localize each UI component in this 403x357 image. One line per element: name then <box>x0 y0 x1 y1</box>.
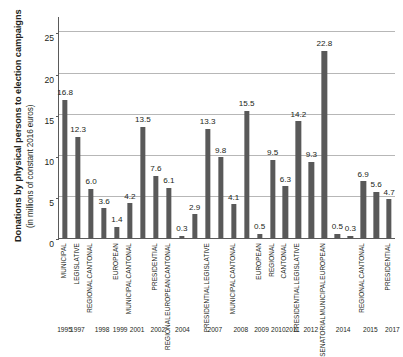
year-label: 2007 <box>207 326 222 333</box>
bar-value-label: 4.7 <box>384 189 395 197</box>
bar-group[interactable]: 15.5 <box>240 17 252 238</box>
bar-group[interactable]: 4.2 <box>124 17 136 238</box>
bar-group[interactable]: 0.3 <box>344 17 356 238</box>
bar-value-label: 12.3 <box>70 126 86 134</box>
x-axis-category-label: CANTONALREGIONAL <box>84 241 96 319</box>
category-line: EUROPEAN <box>164 279 171 316</box>
bar[interactable] <box>309 162 314 238</box>
bar[interactable] <box>244 111 249 238</box>
bar[interactable] <box>101 208 106 238</box>
bar-group[interactable]: 6.1 <box>163 17 175 238</box>
bar[interactable] <box>88 189 93 238</box>
bar[interactable] <box>257 234 262 238</box>
year-label: 2011 <box>286 326 300 333</box>
bar-group[interactable]: 14.2 <box>292 17 304 238</box>
bar-value-label: 4.2 <box>124 193 135 201</box>
bar-group[interactable]: 9.3 <box>305 17 317 238</box>
bar-group[interactable]: 22.8 <box>318 17 330 238</box>
bar-group[interactable]: 12.3 <box>72 17 84 238</box>
bar[interactable] <box>348 236 353 238</box>
bar-value-label: 3.6 <box>98 198 109 206</box>
bar[interactable] <box>322 51 327 238</box>
bar-group[interactable]: 0.5 <box>331 17 343 238</box>
year-label: 2012 <box>303 326 318 333</box>
bar[interactable] <box>62 100 67 238</box>
category-line: REGIONAL <box>268 243 275 277</box>
x-axis-category-label: CANTONALMUNICIPAL <box>123 241 135 319</box>
bar[interactable] <box>361 181 366 238</box>
x-axis-year-labels: 1995199719981999200120022004200720082009… <box>58 326 395 340</box>
x-axis-category-label: LEGISLATIVEPRESIDENTIAL <box>201 241 213 319</box>
x-axis-category-label: CANTONALEUROPEANREGIONAL <box>162 241 174 319</box>
bar[interactable] <box>387 199 392 238</box>
category-line: CANTONAL <box>164 243 171 278</box>
year-label: 2004 <box>175 326 190 333</box>
bar-group[interactable]: 9.5 <box>266 17 278 238</box>
bar-group[interactable]: 0.3 <box>176 17 188 238</box>
bar-group[interactable]: 13.5 <box>137 17 149 238</box>
category-line: CANTONAL <box>229 243 236 278</box>
x-axis-category-label: PRESIDENTIAL <box>382 241 394 319</box>
bar[interactable] <box>270 160 275 238</box>
year-label: 2015 <box>363 326 378 333</box>
bar-value-label: 9.8 <box>215 147 226 155</box>
bar-group[interactable]: 5.6 <box>370 17 382 238</box>
bar[interactable] <box>218 157 223 238</box>
bar-group[interactable]: 9.8 <box>215 17 227 238</box>
year-label: 2008 <box>233 326 248 333</box>
bar[interactable] <box>296 121 301 238</box>
bar-group[interactable]: 2.9 <box>189 17 201 238</box>
year-label: 2014 <box>336 326 351 333</box>
bar-group[interactable]: 1.4 <box>111 17 123 238</box>
bar-group[interactable]: 0.5 <box>253 17 265 238</box>
y-axis-subtitle: (in millions of constant 2016 euros) <box>26 105 35 228</box>
bar[interactable] <box>166 188 171 238</box>
bar-value-label: 15.5 <box>239 100 255 108</box>
bar-group[interactable]: 4.1 <box>228 17 240 238</box>
category-line: EUROPEAN <box>320 243 327 280</box>
category-line: MUNICIPAL <box>320 280 327 315</box>
bar-group[interactable]: 6.9 <box>357 17 369 238</box>
bar-group[interactable]: 6.3 <box>279 17 291 238</box>
bar[interactable] <box>75 137 80 238</box>
x-axis-category-label: MUNICIPAL <box>58 241 70 319</box>
year-label: 2002 <box>150 326 165 333</box>
x-axis-category-label: REGIONAL <box>265 241 277 319</box>
bar-value-label: 6.3 <box>280 176 291 184</box>
bar-group[interactable]: 4.7 <box>383 17 395 238</box>
bar[interactable] <box>153 176 158 238</box>
bar[interactable] <box>335 234 340 238</box>
x-axis-category-label: EUROPEANMUNICIPALSENATORIAL <box>317 241 329 319</box>
bar-value-label: 6.1 <box>163 177 174 185</box>
bar[interactable] <box>205 129 210 238</box>
bar[interactable] <box>140 127 145 238</box>
bar-group[interactable]: 7.6 <box>150 17 162 238</box>
bar[interactable] <box>179 236 184 238</box>
bar[interactable] <box>192 214 197 238</box>
bar[interactable] <box>283 186 288 238</box>
x-axis-category-label: EUROPEAN <box>252 241 264 319</box>
bar[interactable] <box>231 204 236 238</box>
bar-value-label: 1.4 <box>111 216 122 224</box>
category-line: REGIONAL <box>86 279 93 313</box>
bar[interactable] <box>127 203 132 238</box>
year-label: 2010 <box>271 326 286 333</box>
bar-value-label: 0.3 <box>176 225 187 233</box>
bar-group[interactable]: 13.3 <box>202 17 214 238</box>
bar[interactable] <box>114 227 119 239</box>
bar-value-label: 5.6 <box>371 181 382 189</box>
year-label: 1999 <box>113 326 128 333</box>
bar-value-label: 0.5 <box>254 223 265 231</box>
bar-value-label: 14.2 <box>291 111 307 119</box>
y-axis-title: Donations by physical persons to electio… <box>13 9 23 242</box>
bar-group[interactable]: 6.0 <box>85 17 97 238</box>
bar-value-label: 2.9 <box>189 204 200 212</box>
x-axis-category-label: PRESIDENTIAL <box>149 241 161 319</box>
category-line: LEGISLATIVE <box>203 243 210 284</box>
y-axis-title-group: Donations by physical persons to electio… <box>0 0 34 250</box>
x-axis-category-label: CANTONALMUNICIPAL <box>227 241 239 319</box>
bar-value-label: 7.6 <box>150 165 161 173</box>
bar[interactable] <box>374 192 379 238</box>
bar-group[interactable]: 3.6 <box>98 17 110 238</box>
x-axis-category-labels: MUNICIPALLEGISLATIVECANTONALREGIONALEURO… <box>58 241 395 319</box>
